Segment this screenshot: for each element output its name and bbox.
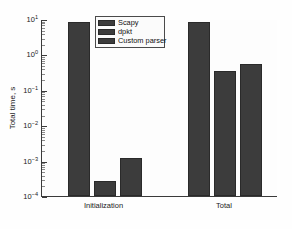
x-axis-label: Initialization — [84, 201, 123, 210]
y-tick-minor — [42, 176, 45, 177]
y-tick-minor — [42, 59, 45, 60]
y-tick-minor — [42, 66, 45, 67]
y-tick-minor — [42, 80, 45, 81]
y-tick-minor — [42, 74, 45, 75]
y-tick-minor — [42, 34, 45, 35]
y-tick-minor — [42, 92, 45, 93]
legend-item[interactable]: dpkt — [98, 27, 162, 36]
y-tick-minor — [42, 130, 45, 131]
y-tick-minor — [42, 186, 45, 187]
y-tick-minor — [42, 105, 45, 106]
y-tick-minor — [42, 25, 45, 26]
y-tick-minor — [42, 57, 45, 58]
y-tick-minor — [42, 69, 45, 70]
legend-swatch-scapy — [98, 20, 115, 26]
y-tick-minor — [42, 128, 45, 129]
y-tick-minor — [42, 134, 45, 135]
y-tick-label: 101 — [27, 16, 38, 24]
chart-legend: Scapy dpkt Custom parser — [95, 16, 165, 48]
y-tick-minor — [42, 101, 45, 102]
y-tick-minor — [42, 39, 45, 40]
y-tick-minor — [42, 31, 45, 32]
bar-scapy-total[interactable] — [188, 22, 210, 196]
y-tick-minor — [42, 132, 45, 133]
bar-custom-parser-total[interactable] — [240, 64, 262, 196]
bar-scapy-initialization[interactable] — [68, 22, 90, 196]
y-tick-minor — [42, 116, 45, 117]
bar-dpkt-total[interactable] — [214, 71, 236, 196]
bar-dpkt-initialization[interactable] — [94, 181, 116, 196]
y-tick-minor — [42, 172, 45, 173]
legend-swatch-custom-parser — [98, 38, 115, 44]
y-tick-label: 10−4 — [23, 193, 38, 201]
y-tick-minor — [42, 63, 45, 64]
y-tick-minor — [42, 137, 45, 138]
y-tick-minor — [42, 165, 45, 166]
y-tick-minor — [42, 169, 45, 170]
legend-item[interactable]: Custom parser — [98, 36, 162, 45]
y-tick-minor — [42, 180, 45, 181]
y-tick-minor — [42, 167, 45, 168]
y-tick-minor — [42, 109, 45, 110]
y-tick-label: 10−2 — [23, 122, 38, 130]
y-tick-minor — [42, 22, 45, 23]
y-tick-label: 10−3 — [23, 158, 38, 166]
figure-canvas: Total time, s 10110010−110−210−310−4 Ini… — [0, 0, 292, 229]
y-tick-label: 100 — [27, 51, 38, 59]
y-tick-minor — [42, 99, 45, 100]
y-tick-minor — [42, 94, 45, 95]
y-tick-minor — [42, 61, 45, 62]
y-tick-minor — [42, 151, 45, 152]
legend-swatch-dpkt — [98, 29, 115, 35]
bar-custom-parser-initialization[interactable] — [120, 158, 142, 196]
legend-label-custom-parser: Custom parser — [118, 37, 166, 45]
y-tick-minor — [42, 163, 45, 164]
y-tick-minor — [42, 140, 45, 141]
legend-item[interactable]: Scapy — [98, 19, 162, 28]
y-tick-minor — [42, 23, 45, 24]
y-tick-minor — [42, 45, 45, 46]
legend-label-scapy: Scapy — [118, 19, 139, 27]
y-tick-minor — [42, 28, 45, 29]
y-tick-minor — [42, 145, 45, 146]
y-tick-major — [42, 197, 47, 198]
legend-label-dpkt: dpkt — [118, 28, 132, 36]
y-axis-title: Total time, s — [8, 63, 17, 153]
x-axis-label: Total — [216, 201, 232, 210]
y-tick-minor — [42, 96, 45, 97]
y-tick-label: 10−1 — [23, 87, 38, 95]
